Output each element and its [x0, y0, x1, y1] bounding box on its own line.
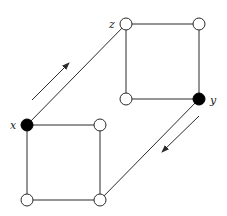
node-lower-bottom-left — [21, 194, 33, 206]
arrow-x-to-z — [32, 63, 69, 100]
edge-x-z — [27, 24, 126, 125]
node-upper-bottom-left — [120, 93, 132, 105]
node-y — [193, 93, 205, 105]
node-upper-top-right — [193, 18, 205, 30]
node-lower-top-right — [94, 119, 106, 131]
arrow-y-to-bottom — [162, 116, 199, 152]
node-lower-bottom-right — [94, 194, 106, 206]
node-z — [120, 18, 132, 30]
label-z: z — [108, 18, 115, 31]
edge-y-lower-bottom-right — [100, 99, 199, 200]
label-x: x — [10, 119, 17, 132]
graph-diagram: z y x — [0, 0, 227, 216]
label-y: y — [209, 94, 217, 107]
node-x — [21, 119, 33, 131]
